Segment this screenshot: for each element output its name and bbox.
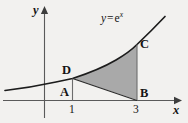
y-axis-label: y <box>33 4 39 17</box>
point-label-d: D <box>62 64 71 77</box>
x-tick-label-1: 1 <box>69 104 75 116</box>
point-label-b: B <box>140 87 148 100</box>
y-axis-arrowhead <box>41 6 48 14</box>
point-label-c: C <box>140 38 149 51</box>
curve-label-exponent: x <box>120 10 123 19</box>
exponential-curve-figure: y x y=ex D A C B 1 3 <box>0 0 188 123</box>
curve-equation-label: y=ex <box>101 13 123 25</box>
figure-canvas <box>0 0 188 123</box>
point-label-a: A <box>60 86 69 99</box>
curve-label-operator: = <box>106 12 115 24</box>
x-axis-label: x <box>173 104 179 117</box>
x-tick-label-3: 3 <box>133 104 139 116</box>
